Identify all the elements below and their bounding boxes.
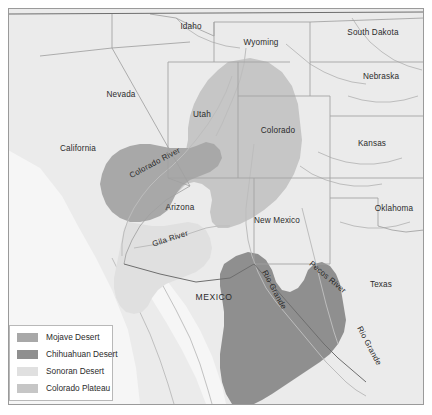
legend-item-chihuahuan-desert[interactable]: Chihuahuan Desert — [10, 346, 112, 363]
state-label-idaho: Idaho — [180, 22, 202, 31]
state-label-south-dakota: South Dakota — [347, 28, 399, 37]
state-label-oklahoma: Oklahoma — [375, 204, 414, 213]
sonoran-swatch — [17, 367, 38, 376]
colorado-plateau-swatch — [17, 384, 38, 393]
state-label-texas: Texas — [370, 280, 392, 289]
state-label-nevada: Nevada — [106, 90, 135, 99]
state-label-arizona: Arizona — [166, 203, 195, 212]
legend-item-colorado-plateau[interactable]: Colorado Plateau — [10, 380, 112, 397]
legend-label-mojave-desert: Mojave Desert — [46, 333, 100, 341]
state-label-california: California — [60, 144, 96, 153]
state-label-wyoming: Wyoming — [243, 38, 278, 47]
state-label-kansas: Kansas — [358, 139, 386, 148]
mojave-swatch — [17, 333, 38, 342]
legend-item-mojave-desert[interactable]: Mojave Desert — [10, 329, 112, 346]
legend-label-colorado-plateau: Colorado Plateau — [46, 384, 110, 392]
state-label-new-mexico: New Mexico — [254, 216, 300, 225]
legend-label-chihuahuan-desert: Chihuahuan Desert — [46, 350, 118, 358]
legend-item-sonoran-desert[interactable]: Sonoran Desert — [10, 363, 112, 380]
map-container: Idaho Wyoming South Dakota Nevada Utah N… — [0, 0, 432, 415]
state-label-utah: Utah — [193, 110, 211, 119]
state-label-colorado: Colorado — [261, 126, 296, 135]
country-label-mexico: MEXICO — [196, 292, 233, 302]
legend-label-sonoran-desert: Sonoran Desert — [46, 367, 104, 375]
map-legend: Mojave Desert Chihuahuan Desert Sonoran … — [9, 325, 113, 401]
state-label-nebraska: Nebraska — [363, 72, 400, 81]
chihuahuan-swatch — [17, 350, 38, 359]
